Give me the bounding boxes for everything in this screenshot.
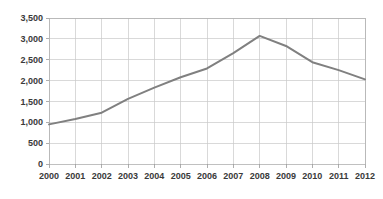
x-axis-tick-label: 2011 xyxy=(329,171,349,181)
x-axis-tick-label: 2006 xyxy=(197,171,217,181)
y-axis-tick-label: 3,000 xyxy=(20,34,43,44)
x-axis-tick-label: 2000 xyxy=(39,171,59,181)
x-axis-tick-label: 2002 xyxy=(92,171,112,181)
x-axis-tick-label: 2009 xyxy=(276,171,296,181)
x-axis-tick-label: 2012 xyxy=(355,171,375,181)
chart-background xyxy=(0,0,383,199)
y-axis-tick-label: 2,000 xyxy=(20,76,43,86)
y-axis-tick-label: 0 xyxy=(38,159,43,169)
line-chart: 05001,0001,5002,0002,5003,0003,500 20002… xyxy=(0,0,383,199)
x-axis-tick-label: 2003 xyxy=(118,171,138,181)
y-axis-tick-label: 500 xyxy=(28,138,43,148)
y-axis-tick-label: 3,500 xyxy=(20,13,43,23)
x-axis-tick-label: 2005 xyxy=(171,171,191,181)
x-axis-tick-label: 2001 xyxy=(65,171,85,181)
x-axis-tick-label: 2010 xyxy=(302,171,322,181)
y-axis-tick-label: 1,500 xyxy=(20,97,43,107)
y-axis-tick-label: 1,000 xyxy=(20,117,43,127)
x-axis-tick-label: 2008 xyxy=(250,171,270,181)
x-axis-tick-label: 2007 xyxy=(223,171,243,181)
x-axis-tick-label: 2004 xyxy=(144,171,164,181)
chart-canvas: 05001,0001,5002,0002,5003,0003,500 20002… xyxy=(0,0,383,199)
y-axis-tick-label: 2,500 xyxy=(20,55,43,65)
